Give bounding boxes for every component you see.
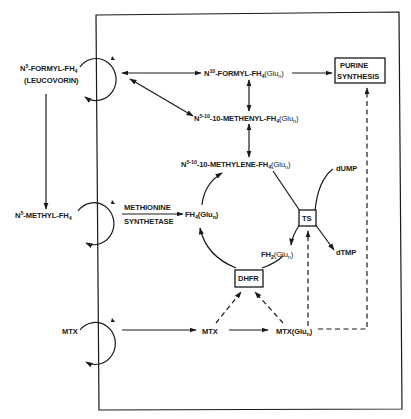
arrow-carrier-methenyl bbox=[130, 79, 193, 116]
carrier-leucovorin-icon bbox=[80, 59, 116, 101]
dtmp-label: dTMP bbox=[336, 248, 356, 257]
carrier-arrowhead-top-icon bbox=[111, 200, 115, 204]
ts-label: TS bbox=[302, 214, 312, 223]
methylene-fh4-glu-label: N5-10-10-METHYLENE-FH4(Glun) bbox=[181, 159, 291, 170]
dashed-mtx-to-dhfr bbox=[216, 292, 241, 323]
dhfr-label: DHFR bbox=[238, 274, 259, 283]
arrow-fh4-to-methylene bbox=[202, 173, 222, 205]
carrier-arrowhead-top-icon bbox=[111, 56, 115, 60]
methenyl-fh4-glu-label: N5-10-10-METHENYL-FH4(Glun) bbox=[194, 113, 299, 124]
fh2-glu-label: FH2(Glun) bbox=[261, 250, 294, 260]
carrier-methyl-icon bbox=[78, 203, 114, 245]
synthetase-label: SYNTHETASE bbox=[124, 217, 174, 226]
purine-label: PURINE bbox=[340, 61, 368, 70]
mtx-intracellular-label: MTX bbox=[202, 327, 218, 336]
arrow-ts-to-dtmp bbox=[315, 224, 334, 250]
line-dump-to-ts bbox=[315, 169, 333, 211]
leucovorin-label: N5-FORMYL-FH4 bbox=[20, 63, 78, 74]
arrow-dhfr-to-fh4 bbox=[200, 228, 236, 268]
folate-pathway-diagram: N5-FORMYL-FH4 (LEUCOVORIN) N5-METHYL-FH4… bbox=[0, 0, 411, 419]
arrow-ts-to-fh2 bbox=[291, 224, 300, 245]
formyl-fh4-glu-label: N10-FORMYL-FH4(Glun) bbox=[204, 68, 284, 79]
mtx-extracellular-label: MTX bbox=[62, 327, 78, 336]
dashed-mtxglu-to-dhfr bbox=[255, 292, 283, 323]
synthesis-label: SYNTHESIS bbox=[337, 72, 379, 81]
line-methylene-to-ts bbox=[273, 171, 300, 211]
dashed-mtxglu-to-purine bbox=[318, 88, 367, 329]
carrier-arrowhead-top-icon bbox=[111, 318, 115, 322]
carrier-mtx-icon bbox=[80, 322, 115, 364]
methyl-fh4-label: N5-METHYL-FH4 bbox=[15, 210, 72, 221]
methionine-label: METHIONINE bbox=[124, 203, 171, 212]
mtx-glu-label: MTX(Glun) bbox=[276, 327, 313, 337]
leucovorin-sublabel: (LEUCOVORIN) bbox=[24, 76, 79, 85]
dump-label: dUMP bbox=[336, 164, 357, 173]
fh4-glu-label: FH4(Glun) bbox=[185, 210, 219, 220]
